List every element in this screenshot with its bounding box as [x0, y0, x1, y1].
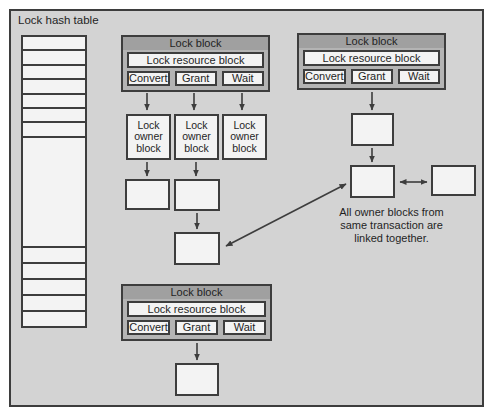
- hash-bucket: [23, 37, 85, 51]
- lock-block-2-resource: Lock resource block: [303, 50, 440, 66]
- lock-block-1: Lock block Lock resource block Convert G…: [121, 35, 270, 92]
- lock-block-2-queues: Convert Grant Wait: [303, 69, 440, 84]
- hash-bucket: [23, 312, 85, 326]
- hash-bucket: [23, 80, 85, 94]
- lock-block-3-grant: Grant: [175, 320, 218, 335]
- annotation-line-2: same transaction are: [328, 219, 455, 232]
- annotation-line-1: All owner blocks from: [328, 206, 455, 219]
- owner-data-box-bottom: [175, 363, 219, 396]
- owner-data-box-right-2: [350, 165, 395, 198]
- lock-block-3-wait: Wait: [223, 320, 266, 335]
- owner-data-box-1: [125, 179, 170, 210]
- lock-block-1-grant: Grant: [175, 71, 217, 86]
- owner-data-box-2: [174, 179, 220, 211]
- owner-data-box-right-1: [351, 113, 394, 146]
- lock-block-3-convert: Convert: [127, 320, 170, 335]
- lock-owner-block-2: Lock owner block: [174, 114, 219, 160]
- hash-bucket: [23, 51, 85, 65]
- annotation-text: All owner blocks from same transaction a…: [328, 206, 455, 244]
- lock-hash-table: [21, 35, 87, 328]
- owner-data-box-3: [174, 232, 220, 265]
- lock-block-1-queues: Convert Grant Wait: [127, 71, 264, 86]
- hash-bucket: [23, 280, 85, 296]
- lock-block-3-resource: Lock resource block: [127, 301, 266, 317]
- hash-bucket: [23, 95, 85, 109]
- hash-bucket: [23, 248, 85, 264]
- lock-block-2-wait: Wait: [398, 69, 440, 84]
- lock-block-2-convert: Convert: [303, 69, 346, 84]
- lock-manager-diagram: Lock hash table Lock block Lock resource…: [0, 0, 492, 416]
- hash-bucket: [23, 123, 85, 137]
- lock-block-3: Lock block Lock resource block Convert G…: [121, 284, 272, 341]
- lock-block-1-title: Lock block: [123, 37, 268, 50]
- lock-owner-block-1: Lock owner block: [126, 114, 171, 160]
- lock-block-1-wait: Wait: [222, 71, 264, 86]
- annotation-line-3: linked together.: [328, 232, 455, 245]
- lock-block-2: Lock block Lock resource block Convert G…: [297, 33, 446, 90]
- lock-block-1-convert: Convert: [127, 71, 170, 86]
- hash-table-label: Lock hash table: [18, 13, 99, 27]
- lock-block-2-title: Lock block: [299, 35, 444, 48]
- hash-bucket: [23, 264, 85, 280]
- hash-bucket: [23, 109, 85, 123]
- lock-block-2-grant: Grant: [351, 69, 393, 84]
- lock-owner-block-3: Lock owner block: [222, 114, 267, 160]
- lock-block-3-queues: Convert Grant Wait: [127, 320, 266, 335]
- hash-bucket-large: [23, 138, 85, 248]
- lock-block-1-resource: Lock resource block: [127, 52, 264, 68]
- lock-block-3-title: Lock block: [123, 286, 270, 299]
- hash-bucket: [23, 66, 85, 80]
- owner-data-box-right-3: [431, 165, 476, 196]
- hash-bucket: [23, 296, 85, 312]
